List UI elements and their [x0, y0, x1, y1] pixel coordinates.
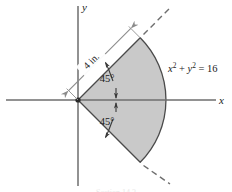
equation-plus: +	[176, 63, 187, 74]
angle-upper-label: 45°	[100, 73, 115, 84]
x-axis-label: x	[218, 94, 224, 106]
figure-canvas: 4 in. 45° 45° y x x2 + y2 = 16 Section 1…	[0, 0, 232, 192]
angle-lower-label: 45°	[100, 116, 115, 127]
dimension-extension-tick-end	[129, 26, 140, 37]
circle-equation-label: x2 + y2 = 16	[167, 61, 218, 75]
lower-radius-extension-dashed	[144, 166, 171, 185]
y-axis-label: y	[81, 1, 87, 13]
upper-radius-extension-dashed	[144, 8, 171, 35]
sector-diagram-svg: 4 in. 45° 45° y x x2 + y2 = 16	[0, 0, 232, 192]
equation-value: 16	[207, 63, 218, 74]
equation-equals: =	[196, 63, 207, 74]
